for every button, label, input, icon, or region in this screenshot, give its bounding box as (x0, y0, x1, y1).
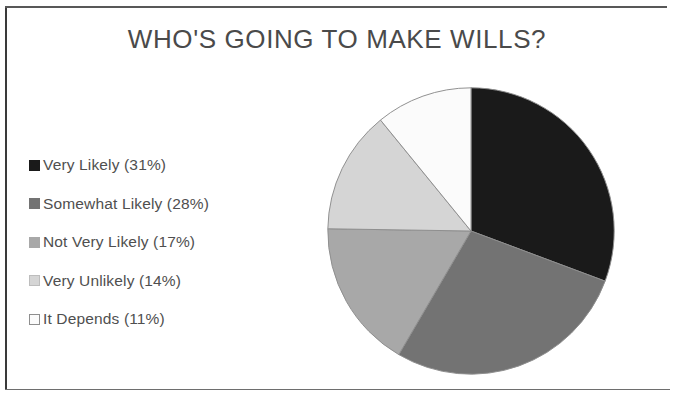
legend-swatch-icon (29, 275, 40, 286)
legend-item[interactable]: Somewhat Likely (28%) (29, 185, 279, 224)
legend-swatch-icon (29, 198, 40, 209)
legend-item-label: It Depends (11%) (43, 310, 165, 328)
legend-item-label: Very Likely (31%) (43, 156, 166, 174)
chart-legend: Very Likely (31%)Somewhat Likely (28%)No… (29, 146, 279, 339)
legend-swatch-icon (29, 237, 40, 248)
legend-item[interactable]: Very Likely (31%) (29, 146, 279, 185)
legend-swatch-icon (29, 314, 40, 325)
legend-item-label: Not Very Likely (17%) (43, 233, 195, 251)
page-frame-bottom-rule (5, 389, 670, 390)
pie-chart-svg (321, 81, 621, 381)
chart-title: WHO'S GOING TO MAKE WILLS? (7, 24, 667, 55)
pie-chart-figure: WHO'S GOING TO MAKE WILLS? Very Likely (… (7, 8, 667, 388)
legend-swatch-icon (29, 160, 40, 171)
legend-item[interactable]: Very Unlikely (14%) (29, 262, 279, 301)
legend-item-label: Somewhat Likely (28%) (43, 195, 209, 213)
legend-item[interactable]: It Depends (11%) (29, 300, 279, 339)
legend-item[interactable]: Not Very Likely (17%) (29, 223, 279, 262)
pie-chart-plot-area (321, 81, 621, 381)
scanned-page: WHO'S GOING TO MAKE WILLS? Very Likely (… (0, 0, 673, 398)
legend-item-label: Very Unlikely (14%) (43, 272, 181, 290)
